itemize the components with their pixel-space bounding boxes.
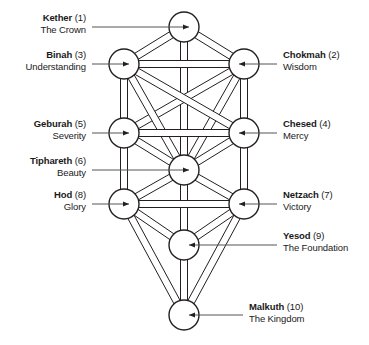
label-number-chesed: (4) — [317, 118, 331, 129]
label-title-geburah: Geburah (5) — [34, 118, 86, 129]
label-kether: Kether (1)The Crown — [8, 12, 86, 35]
label-name-malkuth: Malkuth — [249, 301, 284, 312]
label-tiphareth: Tiphareth (6)Beauty — [2, 155, 86, 178]
label-title-yesod: Yesod (9) — [283, 230, 324, 241]
label-name-chokmah: Chokmah — [283, 49, 326, 60]
path-hod-malkuth — [121, 202, 187, 316]
label-subtitle-geburah: Severity — [8, 130, 86, 142]
label-subtitle-tiphareth: Beauty — [2, 167, 86, 179]
label-title-chesed: Chesed (4) — [283, 118, 331, 129]
label-subtitle-hod: Glory — [8, 201, 86, 213]
label-malkuth: Malkuth (10)The Kingdom — [249, 301, 369, 324]
path-chokmah-binah — [124, 61, 244, 68]
label-geburah: Geburah (5)Severity — [8, 118, 86, 141]
label-number-yesod: (9) — [311, 230, 325, 241]
label-title-hod: Hod (8) — [54, 189, 86, 200]
label-binah: Binah (3)Understanding — [0, 49, 86, 72]
label-title-kether: Kether (1) — [43, 12, 86, 23]
label-number-malkuth: (10) — [284, 301, 303, 312]
label-name-chesed: Chesed — [283, 118, 317, 129]
label-number-kether: (1) — [72, 12, 86, 23]
label-subtitle-netzach: Victory — [283, 201, 369, 213]
label-title-tiphareth: Tiphareth (6) — [30, 155, 86, 166]
label-name-hod: Hod — [54, 189, 72, 200]
label-subtitle-malkuth: The Kingdom — [249, 313, 369, 325]
label-number-binah: (3) — [72, 49, 86, 60]
label-hod: Hod (8)Glory — [8, 189, 86, 212]
label-number-tiphareth: (6) — [72, 155, 86, 166]
label-title-netzach: Netzach (7) — [283, 189, 333, 200]
label-number-chokmah: (2) — [326, 49, 340, 60]
path-netzach-malkuth — [181, 202, 247, 316]
label-netzach: Netzach (7)Victory — [283, 189, 369, 212]
label-subtitle-binah: Understanding — [0, 61, 86, 73]
label-subtitle-chesed: Mercy — [283, 130, 369, 142]
label-name-binah: Binah — [46, 49, 72, 60]
label-name-netzach: Netzach — [283, 189, 319, 200]
label-title-chokmah: Chokmah (2) — [283, 49, 339, 60]
label-name-yesod: Yesod — [283, 230, 311, 241]
label-name-kether: Kether — [43, 12, 73, 23]
path-netzach-hod — [124, 201, 244, 208]
label-name-tiphareth: Tiphareth — [30, 155, 72, 166]
label-subtitle-chokmah: Wisdom — [283, 61, 369, 73]
label-title-malkuth: Malkuth (10) — [249, 301, 303, 312]
label-number-geburah: (5) — [72, 118, 86, 129]
label-number-hod: (8) — [72, 189, 86, 200]
label-subtitle-kether: The Crown — [8, 24, 86, 36]
path-chesed-geburah — [124, 130, 244, 137]
label-subtitle-yesod: The Foundation — [283, 242, 369, 254]
label-number-netzach: (7) — [319, 189, 333, 200]
label-chesed: Chesed (4)Mercy — [283, 118, 369, 141]
label-name-geburah: Geburah — [34, 118, 72, 129]
label-chokmah: Chokmah (2)Wisdom — [283, 49, 369, 72]
label-title-binah: Binah (3) — [46, 49, 86, 60]
label-yesod: Yesod (9)The Foundation — [283, 230, 369, 253]
